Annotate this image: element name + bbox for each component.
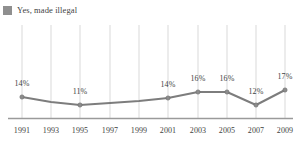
x-tick-2005: 2005 [219,126,235,136]
x-tick-1991: 1991 [14,126,30,136]
series-markers [20,88,287,107]
plot-area: 14% 11% 14% 16% 16% 12% 17% [0,22,301,122]
x-tick-1995: 1995 [72,126,88,136]
legend-label: Yes, made illegal [17,5,77,15]
line-chart: Yes, made illegal [0,0,301,150]
series-line [22,90,285,105]
x-tick-2001: 2001 [160,126,176,136]
data-label-2007: 12% [249,87,264,96]
x-axis: 1991 1993 1995 1997 1999 2001 2003 2005 … [0,122,301,142]
legend-swatch-icon [3,6,12,15]
x-tick-2003: 2003 [190,126,206,136]
data-label-2001: 14% [161,80,176,89]
data-label-2003: 16% [191,74,206,83]
data-label-1995: 11% [73,87,88,96]
data-label-1991: 14% [15,79,30,88]
chart-legend: Yes, made illegal [3,3,77,17]
x-tick-1999: 1999 [131,126,147,136]
x-tick-2007: 2007 [248,126,264,136]
x-tick-1993: 1993 [43,126,59,136]
data-label-2009: 17% [278,72,293,81]
data-label-2005: 16% [220,74,235,83]
x-tick-2009: 2009 [277,126,293,136]
x-tick-1997: 1997 [102,126,118,136]
